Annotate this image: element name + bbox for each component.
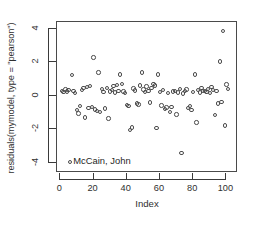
x-axis-line bbox=[59, 179, 225, 180]
y-tick-4 bbox=[48, 28, 56, 29]
data-point bbox=[156, 72, 160, 76]
data-point bbox=[221, 29, 225, 33]
data-point bbox=[148, 100, 152, 104]
x-tick-20 bbox=[93, 173, 94, 180]
data-point bbox=[126, 104, 130, 108]
x-tick-label-100: 100 bbox=[211, 183, 239, 193]
data-point bbox=[223, 123, 227, 127]
data-point bbox=[161, 88, 165, 92]
y-axis-title-container: residuals(mymodel, type = "pearson") bbox=[0, 0, 22, 195]
x-axis-title: Index bbox=[56, 198, 238, 209]
x-tick-40 bbox=[126, 173, 127, 180]
y-tick-0 bbox=[48, 95, 56, 96]
y-tick-label-2: 2 bbox=[29, 50, 41, 72]
data-point bbox=[78, 104, 82, 108]
x-tick-60 bbox=[159, 173, 160, 180]
data-point bbox=[70, 73, 74, 77]
x-tick-label-20: 20 bbox=[79, 183, 107, 193]
x-tick-label-60: 60 bbox=[145, 183, 173, 193]
data-point bbox=[174, 112, 178, 116]
data-point bbox=[154, 126, 158, 130]
y-tick-label-0: 0 bbox=[29, 84, 41, 106]
y-tick-label--4: -4 bbox=[29, 151, 41, 173]
x-tick-label-40: 40 bbox=[112, 183, 140, 193]
x-tick-100 bbox=[225, 173, 226, 180]
data-point bbox=[91, 55, 95, 59]
data-point bbox=[83, 115, 87, 119]
x-tick-label-80: 80 bbox=[178, 183, 206, 193]
data-point bbox=[101, 90, 105, 94]
y-tick-label-4: 4 bbox=[29, 17, 41, 39]
data-point bbox=[136, 102, 140, 106]
data-point bbox=[120, 82, 124, 86]
data-point bbox=[140, 70, 144, 74]
data-point bbox=[103, 106, 107, 110]
data-point bbox=[130, 125, 134, 129]
data-point bbox=[115, 83, 119, 87]
data-point bbox=[118, 72, 122, 76]
data-point bbox=[224, 82, 228, 86]
plot-panel bbox=[56, 21, 237, 172]
data-point bbox=[73, 91, 77, 95]
y-tick--4 bbox=[48, 162, 56, 163]
x-tick-0 bbox=[59, 173, 60, 180]
data-point bbox=[106, 116, 110, 120]
data-point bbox=[168, 110, 172, 114]
data-point bbox=[96, 70, 100, 74]
data-point bbox=[219, 100, 223, 104]
data-point bbox=[214, 89, 218, 93]
data-point bbox=[133, 88, 137, 92]
y-tick-label--2: -2 bbox=[29, 117, 41, 139]
data-point bbox=[191, 90, 195, 94]
x-tick-80 bbox=[192, 173, 193, 180]
data-point bbox=[98, 110, 102, 114]
x-tick-label-0: 0 bbox=[45, 183, 73, 193]
y-tick-2 bbox=[48, 61, 56, 62]
data-point bbox=[116, 89, 120, 93]
data-point bbox=[193, 72, 197, 76]
r-plot-figure: residuals(mymodel, type = "pearson") McC… bbox=[0, 0, 255, 233]
data-point bbox=[88, 84, 92, 88]
point-annotation-label: McCain, John bbox=[73, 155, 130, 166]
data-point bbox=[213, 113, 217, 117]
y-tick--2 bbox=[48, 128, 56, 129]
data-point bbox=[164, 105, 168, 109]
data-point bbox=[189, 108, 193, 112]
data-point bbox=[123, 91, 127, 95]
data-point bbox=[66, 88, 70, 92]
data-point bbox=[153, 83, 157, 87]
data-point bbox=[169, 105, 173, 109]
data-point bbox=[68, 160, 72, 164]
data-point bbox=[218, 59, 222, 63]
data-point bbox=[76, 111, 80, 115]
data-point bbox=[194, 120, 198, 124]
data-point bbox=[184, 87, 188, 91]
data-point bbox=[166, 91, 170, 95]
y-axis-title: residuals(mymodel, type = "pearson") bbox=[6, 22, 16, 173]
data-point bbox=[226, 87, 230, 91]
data-point bbox=[179, 151, 183, 155]
